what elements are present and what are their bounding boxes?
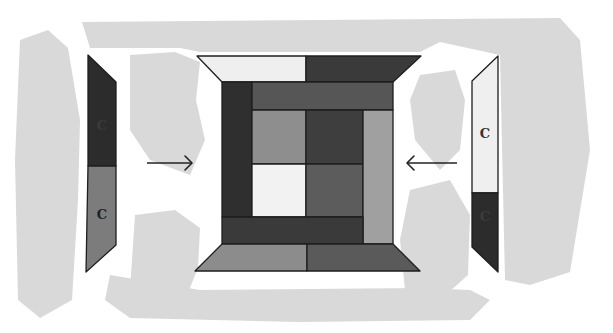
center-block (195, 56, 421, 271)
inner-top-right (306, 110, 363, 164)
right-strip-bottom-label: C (480, 209, 490, 224)
inner-bottom-left (252, 164, 306, 217)
wash-left-blob (130, 52, 205, 175)
top-trapezoid-right (306, 56, 421, 82)
left-strip-top (88, 55, 116, 166)
inner-bottom-right (306, 164, 363, 217)
bottom-strip (222, 217, 363, 244)
top-trapezoid-left (197, 56, 306, 82)
right-strip-top-label: C (480, 126, 490, 141)
right-strip-top (472, 56, 498, 193)
wash-right-blob-bottom (400, 180, 470, 300)
top-strip (252, 82, 393, 110)
left-strip-top-label: C (97, 118, 107, 133)
right-column (363, 110, 393, 244)
left-strip-bottom-label: C (97, 207, 107, 222)
left-c-strip: CC (86, 55, 116, 272)
right-c-strip: CC (472, 56, 498, 272)
bottom-trapezoid-left (195, 244, 307, 271)
inner-top-left (252, 110, 306, 164)
left-column (222, 82, 252, 217)
right-strip-bottom (472, 193, 498, 272)
diagram-canvas: CC CC (0, 0, 613, 333)
wash-right-blob-top (410, 70, 465, 170)
quilt-assembly-diagram: CC CC (0, 0, 613, 333)
wash-left-column (15, 30, 80, 318)
